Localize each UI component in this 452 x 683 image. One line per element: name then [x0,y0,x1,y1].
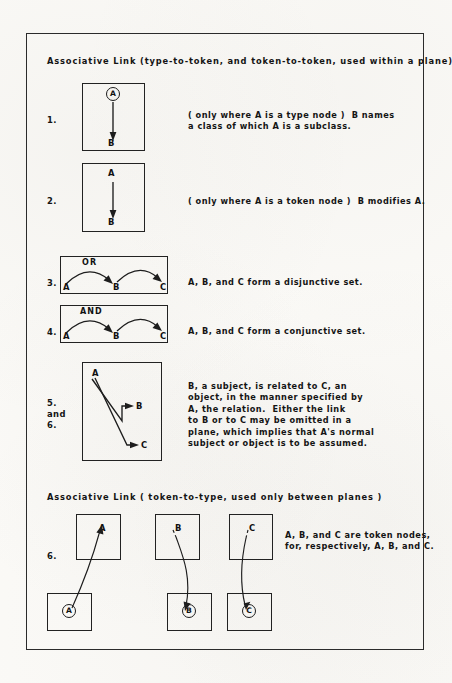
item-3-node-c: C [160,283,166,292]
item-5-node-c: C [141,441,147,450]
item-1-number: 1. [47,115,57,126]
item-5-number-line-3: 6. [47,420,66,431]
item-3-node-a: A [63,283,70,292]
item-6-cross-plane-arrows [40,510,290,635]
item-2-number: 2. [47,196,57,207]
item-5-node-b: B [136,402,143,411]
section-two-heading: Associative Link ( token-to-type, used o… [47,492,382,502]
section-one-heading: Associative Link (type-to-token, and tok… [47,56,452,66]
item-6-description: A, B, and C are token nodes, for, respec… [285,530,434,553]
item-1-node-b: B [108,139,115,148]
item-4-node-a: A [63,332,70,341]
item-3-node-b: B [113,283,120,292]
item-4-node-b: B [113,332,120,341]
item-4-node-c: C [160,332,166,341]
item-5-description: B, a subject, is related to C, an object… [188,381,374,449]
item-5-relation-lines [82,362,162,461]
item-2-description: ( only where A is a token node ) B modif… [188,196,425,207]
scanned-figure-page: Associative Link (type-to-token, and tok… [0,0,452,683]
item-4-number: 4. [47,327,57,338]
item-5-number-line-1: 5. [47,398,66,409]
item-2-node-b: B [108,218,115,227]
item-1-description: ( only where A is a type node ) B names … [188,110,395,133]
item-3-number: 3. [47,278,57,289]
item-5-number-line-2: and [47,409,66,420]
item-5-number: 5. and 6. [47,398,66,431]
item-4-description: A, B, and C form a conjunctive set. [188,326,366,337]
item-3-description: A, B, and C form a disjunctive set. [188,277,363,288]
